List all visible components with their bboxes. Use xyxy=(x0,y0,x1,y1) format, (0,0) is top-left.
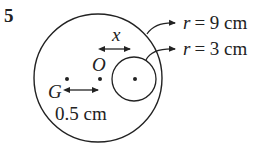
label-g: G xyxy=(48,81,62,102)
figure-diagram: 5 x O G 0.5 cm r= 9 cm r= 3 cm xyxy=(0,0,266,151)
point-o-dot xyxy=(98,77,102,81)
inner-radius-label: r= 3 cm xyxy=(183,38,248,59)
label-o: O xyxy=(92,54,106,75)
label-x: x xyxy=(111,24,121,45)
point-g-dot xyxy=(65,77,69,81)
label-distance: 0.5 cm xyxy=(55,103,107,124)
outer-radius-label: r= 9 cm xyxy=(183,12,248,33)
inner-center-dot xyxy=(133,77,137,81)
outer-radius-leader-arrow-icon xyxy=(147,23,175,34)
question-number: 5 xyxy=(4,5,14,26)
inner-radius-leader-arrow-icon xyxy=(146,49,175,60)
